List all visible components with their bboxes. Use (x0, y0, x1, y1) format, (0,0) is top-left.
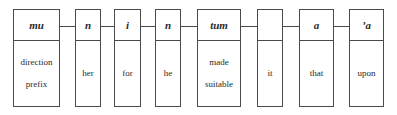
morpheme-form: i (115, 10, 140, 41)
gloss-line: he (164, 62, 173, 84)
gloss-line: her (82, 62, 94, 84)
morpheme-form: n (76, 10, 100, 41)
morpheme-box-mu: mu direction prefix (13, 9, 60, 107)
morpheme-form: ’a (350, 10, 383, 41)
morpheme-form: mu (14, 10, 59, 41)
morpheme-box-i: i for (114, 9, 141, 107)
gloss-line: prefix (26, 73, 48, 95)
morpheme-gloss: he (156, 40, 180, 106)
gloss-line: suitable (205, 73, 233, 95)
gloss-line: for (122, 62, 133, 84)
gloss-line: it (267, 62, 272, 84)
morpheme-box-tum: tum made suitable (197, 9, 241, 107)
gloss-line: upon (358, 62, 376, 84)
connector-line (241, 26, 257, 27)
morpheme-box-empty: it (257, 9, 283, 107)
connector-line (181, 26, 197, 27)
gloss-line: that (310, 62, 324, 84)
morpheme-form: a (300, 10, 333, 41)
connector-line (101, 26, 114, 27)
morpheme-box-apostrophe-a: ’a upon (349, 9, 384, 107)
connector-line (60, 26, 75, 27)
morpheme-gloss: for (115, 40, 140, 106)
morpheme-box-n: n her (75, 9, 101, 107)
morpheme-gloss: that (300, 40, 333, 106)
morpheme-gloss: it (258, 40, 282, 106)
gloss-line: direction (21, 51, 53, 73)
morpheme-gloss: direction prefix (14, 40, 59, 106)
morpheme-form: tum (198, 10, 240, 41)
connector-line (283, 26, 299, 27)
morpheme-box-n-2: n he (155, 9, 181, 107)
morpheme-gloss: made suitable (198, 40, 240, 106)
morpheme-form: n (156, 10, 180, 41)
connector-line (334, 26, 349, 27)
connector-line (141, 26, 155, 27)
morpheme-form (258, 10, 282, 41)
morpheme-gloss: upon (350, 40, 383, 106)
gloss-line: made (209, 51, 229, 73)
morpheme-gloss: her (76, 40, 100, 106)
morpheme-box-a: a that (299, 9, 334, 107)
